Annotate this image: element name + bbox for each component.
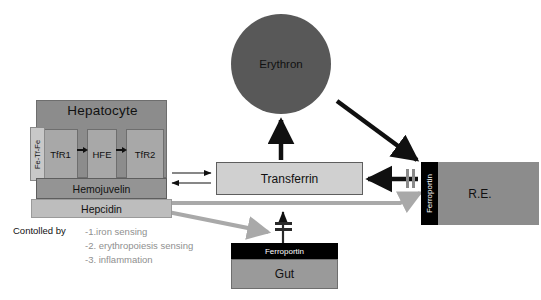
inhibition-bar [275, 222, 292, 225]
transferrin-label: Transferrin [261, 172, 319, 186]
reticuloendothelial-box: R.E. [421, 162, 539, 225]
erythron-circle: Erythron [231, 14, 331, 114]
controlled-by-heading: Contolled by [13, 225, 66, 236]
hepatocyte-label: Hepatocyte [37, 103, 168, 118]
hepcidin-label: Hepcidin [81, 203, 122, 215]
receptor-tfr1-label: TfR1 [50, 149, 71, 160]
receptor-hfe-label: HFE [93, 149, 112, 160]
gut-box: Gut [231, 259, 338, 289]
controlled-by-list: -1.iron sensing -2. erythropoiesis sensi… [85, 225, 193, 267]
controlled-by-item: -2. erythropoiesis sensing [85, 239, 193, 253]
arrow-hfe-to-tfr2 [116, 149, 123, 151]
hepcidin-box: Hepcidin [31, 199, 172, 218]
reticuloendothelial-label: R.E. [468, 187, 491, 201]
inhibition-bar [406, 169, 409, 188]
receptor-tfr1: TfR1 [43, 129, 78, 179]
inhibition-symbol-gut [275, 222, 292, 234]
fe-tf-fe-label: Fe-Tf-Fe [33, 139, 42, 168]
inhibition-bar [412, 169, 415, 188]
controlled-by-group: Contolled by -1.iron sensing -2. erythro… [13, 225, 213, 273]
receptor-hfe: HFE [87, 129, 117, 179]
gut-group: Ferroportin Gut [231, 243, 338, 289]
hemojuvelin-label: Hemojuvelin [73, 183, 131, 195]
arrow-tfr1-to-hfe [77, 149, 84, 151]
hepatocyte-box: Hepatocyte TfR1 HFE TfR2 Fe-Tf-Fe [36, 100, 167, 178]
erythron-label: Erythron [259, 58, 302, 70]
re-ferroportin-label: Ferroportin [425, 174, 434, 213]
inhibition-symbol-re [406, 169, 418, 188]
re-ferroportin-bar: Ferroportin [421, 162, 438, 225]
iron-metabolism-diagram: Hepatocyte TfR1 HFE TfR2 Fe-Tf-Fe Hemoju… [0, 0, 541, 300]
controlled-by-item: -1.iron sensing [85, 225, 193, 239]
hemojuvelin-box: Hemojuvelin [36, 178, 167, 199]
gut-label: Gut [275, 267, 294, 281]
inhibition-bar [275, 228, 292, 231]
reticuloendothelial-group: R.E. Ferroportin [421, 162, 539, 225]
receptor-tfr2-label: TfR2 [135, 149, 156, 160]
receptor-tfr2: TfR2 [126, 129, 164, 179]
gut-ferroportin-label: Ferroportin [265, 247, 304, 256]
hepatocyte-group: Hepatocyte TfR1 HFE TfR2 Fe-Tf-Fe Hemoju… [36, 100, 167, 218]
fe-tf-fe-ligand: Fe-Tf-Fe [30, 127, 45, 181]
arrow-erythron-to-re [337, 101, 417, 160]
controlled-by-item: -3. inflammation [85, 253, 193, 267]
transferrin-box: Transferrin [216, 162, 363, 195]
gut-ferroportin-bar: Ferroportin [231, 243, 338, 259]
